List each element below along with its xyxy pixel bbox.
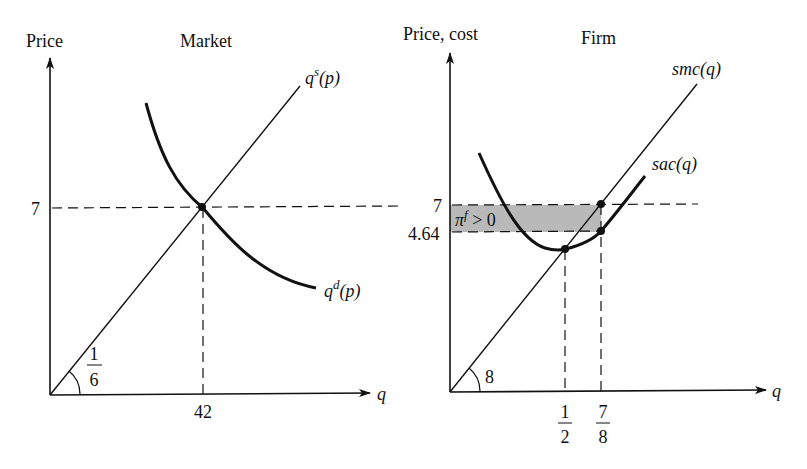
market-equilibrium-point <box>198 203 206 211</box>
market-title: Market <box>180 31 232 51</box>
market-y-axis-label: Price <box>26 31 63 51</box>
market-x-axis-label: q <box>377 384 386 404</box>
market-panel: Price Market q 1 6 7 42 qs(p) qd(p) <box>26 31 400 422</box>
market-price-guide <box>52 206 400 208</box>
firm-q-tick2-den: 8 <box>599 427 608 447</box>
firm-q-tick2-num: 7 <box>599 402 608 422</box>
firm-price-guide <box>452 204 698 205</box>
demand-label: qd(p) <box>324 277 361 302</box>
market-slope-num: 1 <box>90 344 99 364</box>
smc-curve <box>450 84 697 392</box>
supply-curve <box>50 86 300 395</box>
market-slope-den: 6 <box>90 370 99 390</box>
market-price-tick: 7 <box>31 199 40 219</box>
sac-label: sac(q) <box>652 154 697 175</box>
market-quantity-tick: 42 <box>194 402 212 422</box>
firm-q-tick1-num: 1 <box>561 402 570 422</box>
sac-output-point <box>597 227 605 235</box>
min-sac-point <box>561 245 569 253</box>
supply-label: qs(p) <box>305 64 340 89</box>
firm-slope-label: 8 <box>485 367 494 387</box>
firm-price-tick: 7 <box>433 196 442 216</box>
firm-angle-arc <box>469 368 480 391</box>
market-angle-arc <box>69 371 80 394</box>
demand-curve <box>146 103 316 288</box>
firm-q-tick1-den: 2 <box>561 427 570 447</box>
smc-label: smc(q) <box>672 59 721 80</box>
firm-panel: Price, cost Firm q 8 7 4.64 1 2 7 8 <box>403 24 781 447</box>
smc-price-point <box>597 200 605 208</box>
firm-x-axis <box>450 390 766 392</box>
firm-cost-tick: 4.64 <box>408 224 440 244</box>
profit-label: πf > 0 <box>455 207 496 230</box>
firm-title: Firm <box>581 28 616 48</box>
market-x-axis <box>50 393 370 395</box>
figure-canvas: Price Market q 1 6 7 42 qs(p) qd(p) Pric… <box>0 0 807 469</box>
sac-curve <box>479 153 645 250</box>
firm-x-axis-label: q <box>772 381 781 401</box>
firm-y-axis-label: Price, cost <box>403 24 478 44</box>
